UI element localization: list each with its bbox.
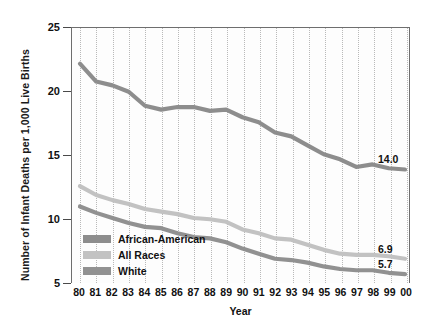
end-value-label-white: 5.7 [378, 258, 393, 270]
infant-mortality-line-chart: Number of Infant Deaths per 1,000 Live B… [0, 0, 429, 330]
x-tick-label-00: 00 [394, 286, 418, 298]
legend-item-african-american: African-American [83, 232, 206, 245]
y-tick-mark-20 [63, 91, 71, 92]
legend-label: African-American [118, 233, 206, 245]
end-value-label-all-races: 6.9 [378, 243, 393, 255]
legend-swatch-icon [83, 267, 111, 275]
legend-label: All Races [118, 249, 165, 261]
y-axis-title: Number of Infant Deaths per 1,000 Live B… [14, 0, 36, 330]
series-line-african-american [80, 64, 405, 170]
legend-label: White [118, 265, 147, 277]
legend-swatch-icon [83, 251, 111, 259]
chart-legend: African-AmericanAll RacesWhite [83, 232, 206, 277]
x-axis-title: Year [71, 305, 410, 317]
x-axis-tick-labels: 8081828384858687888990919293949596979899… [71, 286, 410, 302]
y-tick-mark-25 [63, 27, 71, 28]
y-axis-tick-labels: 252015105 [36, 0, 60, 330]
legend-item-all-races: All Races [83, 248, 206, 261]
legend-swatch-icon [83, 235, 111, 243]
y-tick-mark-15 [63, 155, 71, 156]
y-tick-mark-5 [63, 283, 71, 284]
y-tick-mark-10 [63, 219, 71, 220]
y-tick-label-10: 10 [38, 213, 60, 225]
y-tick-label-25: 25 [38, 21, 60, 33]
y-tick-label-15: 15 [38, 149, 60, 161]
y-tick-label-20: 20 [38, 85, 60, 97]
end-value-label-african-american: 14.0 [378, 153, 398, 165]
y-tick-label-5: 5 [38, 277, 60, 289]
legend-item-white: White [83, 264, 206, 277]
